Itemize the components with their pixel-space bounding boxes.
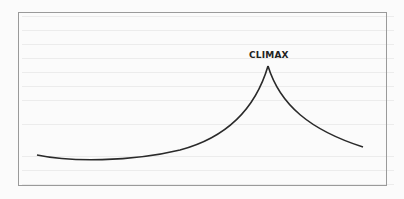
plot-curve [0, 0, 404, 199]
falling-curve [268, 66, 363, 147]
rising-curve [37, 66, 268, 160]
climax-label: CLIMAX [249, 50, 289, 60]
